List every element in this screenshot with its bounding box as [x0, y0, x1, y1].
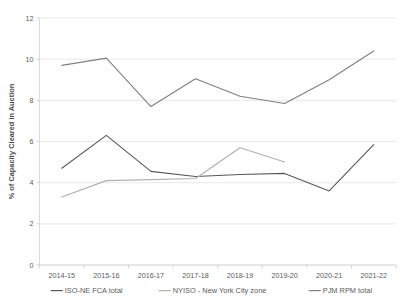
line-chart: 0246810122014-152015-162016-172017-18201…	[0, 0, 404, 305]
y-axis-tick-label: 8	[30, 96, 34, 105]
legend-label-2: PJM RPM total	[323, 286, 373, 295]
y-axis-tick-label: 12	[26, 14, 34, 23]
y-axis-tick-label: 10	[26, 55, 34, 64]
x-axis-tick-label: 2019-20	[271, 271, 297, 280]
x-axis-tick-label: 2015-16	[93, 271, 119, 280]
x-axis-tick-label: 2018-19	[227, 271, 253, 280]
y-axis-tick-label: 6	[30, 137, 34, 146]
legend-label-1: NYISO - New York City zone	[173, 286, 267, 295]
legend-label-0: ISO-NE FCA total	[65, 286, 123, 295]
x-axis-tick-label: 2021-22	[361, 271, 387, 280]
y-axis-title: % of Capacity Cleared in Auction	[7, 83, 16, 199]
chart-canvas: 0246810122014-152015-162016-172017-18201…	[0, 0, 404, 305]
x-axis-tick-label: 2016-17	[138, 271, 164, 280]
y-axis-tick-label: 4	[30, 178, 34, 187]
x-axis-tick-label: 2020-21	[316, 271, 342, 280]
series-line-1	[62, 148, 285, 197]
y-axis-tick-label: 2	[30, 219, 34, 228]
y-axis-tick-label: 0	[30, 261, 34, 270]
x-axis-tick-label: 2014-15	[49, 271, 75, 280]
x-axis-tick-label: 2017-18	[182, 271, 208, 280]
